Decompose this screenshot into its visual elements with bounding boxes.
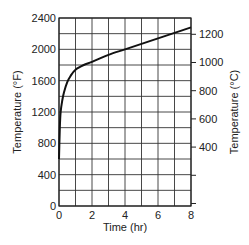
y-axis-label: Temperature (°F) xyxy=(11,70,23,153)
x-tick-label: 2 xyxy=(89,209,95,221)
y-tick-label: 2400 xyxy=(32,12,56,24)
y-tick-label: 1200 xyxy=(32,106,56,118)
y-tick-label: 800 xyxy=(38,137,56,149)
y2-tick-label: 800 xyxy=(199,85,217,97)
x-axis-label: Time (hr) xyxy=(103,221,147,233)
y-tick-label: 1600 xyxy=(32,75,56,87)
y-tick-label: 2000 xyxy=(32,43,56,55)
y2-tick-label: 1200 xyxy=(199,28,223,40)
y2-tick-label: 400 xyxy=(199,141,217,153)
y2-tick-label: 600 xyxy=(199,113,217,125)
x-axis-ticks: 02468 xyxy=(56,209,194,221)
y-tick-label: 400 xyxy=(38,169,56,181)
x-tick-label: 6 xyxy=(155,209,161,221)
y2-tick-label: 1000 xyxy=(199,56,223,68)
x-tick-label: 8 xyxy=(188,209,194,221)
y-axis-ticks: 04008001200160020002400 xyxy=(32,12,56,212)
y2-axis-label: Temperature (°C) xyxy=(228,70,240,154)
temperature-time-chart: 04008001200160020002400 4006008001000120… xyxy=(0,0,249,245)
grid xyxy=(59,18,191,206)
x-tick-label: 0 xyxy=(56,209,62,221)
x-tick-label: 4 xyxy=(122,209,128,221)
y2-axis-ticks: 40060080010001200 xyxy=(191,28,223,203)
